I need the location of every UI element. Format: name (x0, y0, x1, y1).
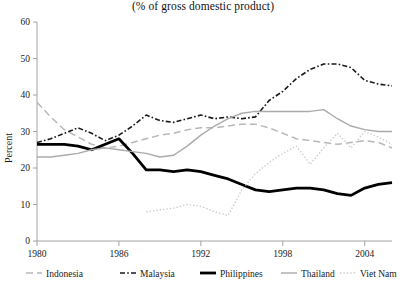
legend-label-thailand[interactable]: Thailand (301, 269, 335, 279)
legend-label-viet-nam[interactable]: Viet Nam (360, 269, 397, 279)
y-tick-label: 10 (21, 200, 31, 210)
chart-container: (% of gross domestic product) 0102030405… (0, 0, 406, 285)
x-tick-label: 1992 (191, 249, 210, 259)
x-tick-label: 1986 (109, 249, 128, 259)
series-line-indonesia (37, 102, 392, 148)
y-tick-label: 0 (25, 236, 30, 246)
chart-svg: 0102030405060 19801986199219982004 Perce… (0, 0, 406, 285)
y-tick-label: 20 (21, 163, 31, 173)
y-tick-label: 60 (21, 17, 31, 27)
series-line-philippines (37, 139, 392, 196)
legend-label-philippines[interactable]: Philippines (220, 269, 263, 279)
y-tick-label: 50 (21, 54, 31, 64)
y-axis-title: Percent (3, 133, 14, 163)
y-axis: 0102030405060 (21, 17, 38, 246)
x-tick-label: 1998 (273, 249, 292, 259)
x-tick-label: 1980 (28, 249, 47, 259)
legend-label-indonesia[interactable]: Indonesia (46, 269, 84, 279)
series-line-viet-nam (146, 132, 392, 216)
y-tick-label: 40 (21, 90, 31, 100)
y-tick-label: 30 (21, 127, 31, 137)
chart-legend: IndonesiaMalaysiaPhilippinesThailandViet… (26, 269, 397, 279)
plot-area (37, 64, 392, 215)
legend-label-malaysia[interactable]: Malaysia (140, 269, 176, 279)
series-line-malaysia (37, 64, 392, 142)
x-axis: 19801986199219982004 (28, 241, 393, 259)
x-tick-label: 2004 (355, 249, 374, 259)
